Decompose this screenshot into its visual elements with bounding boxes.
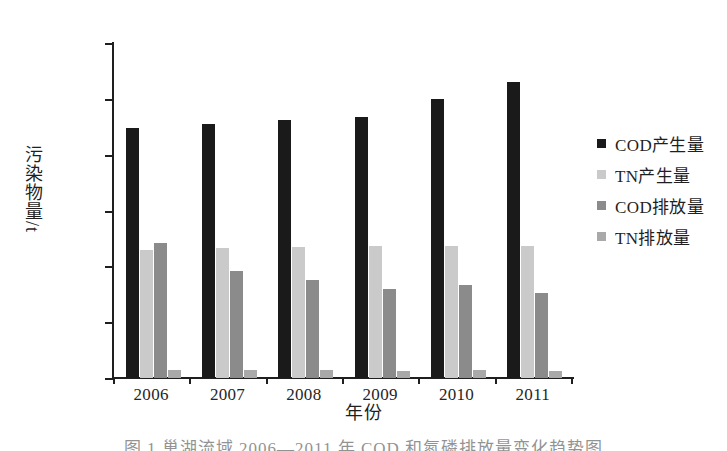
y-axis-tick <box>105 266 113 268</box>
bar-chart-figure: 污染物量/t 年份 010 00020 00030 00040 00050 00… <box>0 0 727 451</box>
x-axis-tick-label: 2008 <box>286 385 321 405</box>
bar <box>521 246 534 378</box>
bar <box>202 124 215 378</box>
bar-group <box>507 43 562 378</box>
bar <box>535 293 548 378</box>
bar <box>306 280 319 378</box>
bar <box>507 82 520 378</box>
bar-group <box>355 43 410 378</box>
x-axis-tick-label: 2007 <box>210 385 245 405</box>
y-axis-title: 污染物量/t <box>16 145 42 233</box>
x-axis-tick <box>266 378 268 384</box>
bar <box>168 370 181 378</box>
chart-legend: COD产生量TN产生量COD排放量TN排放量 <box>597 128 704 252</box>
x-axis-tick <box>571 378 573 384</box>
bar-group <box>202 43 257 378</box>
x-axis-tick <box>342 378 344 384</box>
bar <box>292 247 305 378</box>
y-axis-tick <box>105 322 113 324</box>
bar <box>473 370 486 378</box>
figure-caption: 图 1 巢湖流域 2006—2011 年 COD 和氮磷排放量变化趋势图 <box>0 434 727 451</box>
plot-area: 010 00020 00030 00040 00050 00060 000200… <box>113 43 571 378</box>
x-axis-tick-label: 2010 <box>439 385 474 405</box>
legend-label: COD产生量 <box>615 131 704 156</box>
legend-swatch-icon <box>597 201 606 210</box>
x-axis-tick-label: 2009 <box>363 385 398 405</box>
legend-label: COD排放量 <box>615 193 704 218</box>
legend-swatch-icon <box>597 139 606 148</box>
y-axis-tick <box>105 378 113 380</box>
bar <box>383 289 396 378</box>
bar <box>244 370 257 378</box>
bar <box>369 246 382 378</box>
legend-item: COD产生量 <box>597 128 704 159</box>
bar <box>230 271 243 378</box>
bar <box>549 371 562 378</box>
x-axis-tick <box>495 378 497 384</box>
legend-swatch-icon <box>597 232 606 241</box>
bar <box>355 117 368 378</box>
x-axis-tick-label: 2011 <box>516 385 551 405</box>
y-axis-tick <box>105 211 113 213</box>
legend-item: TN产生量 <box>597 159 704 190</box>
x-axis-tick <box>113 378 115 384</box>
x-axis-tick-label: 2006 <box>134 385 169 405</box>
bar-group <box>278 43 333 378</box>
bar <box>459 285 472 378</box>
bar <box>154 243 167 378</box>
bar <box>431 99 444 378</box>
bar <box>278 120 291 378</box>
bar <box>320 370 333 378</box>
x-axis-tick <box>418 378 420 384</box>
x-axis-tick <box>189 378 191 384</box>
bar <box>445 246 458 378</box>
bar <box>140 250 153 378</box>
legend-item: COD排放量 <box>597 190 704 221</box>
y-axis-tick <box>105 99 113 101</box>
bar <box>397 371 410 378</box>
legend-label: TN产生量 <box>615 162 691 187</box>
bar <box>126 128 139 378</box>
legend-swatch-icon <box>597 170 606 179</box>
bar <box>216 248 229 378</box>
legend-label: TN排放量 <box>615 224 691 249</box>
bar-group <box>431 43 486 378</box>
y-axis-tick <box>105 43 113 45</box>
y-axis-tick <box>105 155 113 157</box>
bar-group <box>126 43 181 378</box>
legend-item: TN排放量 <box>597 221 704 252</box>
